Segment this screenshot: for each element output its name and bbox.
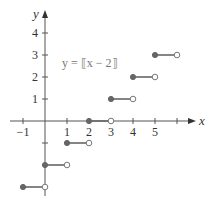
step-segment (130, 74, 157, 80)
x-tick-label: −1 (17, 125, 30, 139)
closed-endpoint (152, 52, 157, 57)
closed-endpoint (86, 118, 91, 123)
y-tick-label: 2 (32, 70, 38, 84)
step-segment (108, 96, 135, 102)
closed-endpoint (42, 162, 47, 167)
x-tick-label: 1 (64, 125, 70, 139)
closed-endpoint (130, 74, 135, 79)
y-tick-label: 3 (32, 48, 38, 62)
equation-label: y = ⟦x − 2⟧ (62, 56, 118, 70)
x-axis-label: x (198, 113, 205, 128)
y-tick-label: 4 (32, 26, 38, 40)
open-endpoint (108, 118, 114, 124)
step-segment (86, 118, 113, 124)
y-tick-label: 1 (32, 92, 38, 106)
x-tick-label: 2 (86, 125, 92, 139)
step-segment (152, 52, 179, 58)
open-endpoint (152, 74, 158, 80)
y-axis-arrow (42, 10, 48, 18)
open-endpoint (130, 96, 136, 102)
open-endpoint (64, 162, 70, 168)
x-tick-label: 4 (130, 125, 136, 139)
y-axis-label: y (31, 6, 39, 21)
open-endpoint (174, 52, 180, 58)
axes: xy (10, 6, 205, 196)
x-axis-arrow (188, 118, 196, 124)
x-tick-label: 3 (108, 125, 114, 139)
step-segment (20, 184, 47, 190)
step-segment (64, 140, 91, 146)
closed-endpoint (108, 96, 113, 101)
step-function-chart: xy −1123451234 y = ⟦x − 2⟧ (0, 0, 216, 206)
step-segment (42, 162, 69, 168)
open-endpoint (86, 140, 92, 146)
closed-endpoint (64, 140, 69, 145)
x-tick-label: 5 (152, 125, 158, 139)
open-endpoint (42, 184, 48, 190)
closed-endpoint (20, 184, 25, 189)
